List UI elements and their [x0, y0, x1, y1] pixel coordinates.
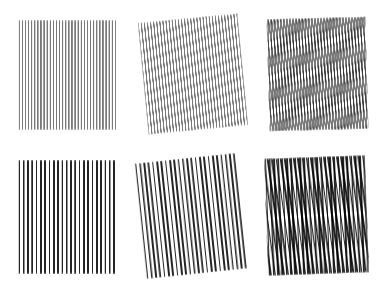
panel-1-content — [18, 20, 117, 130]
line-grating-layer-rotated — [267, 17, 369, 132]
panel-line-grating-base — [18, 20, 117, 130]
panel-4-content — [17, 160, 117, 274]
panel-5-content — [134, 153, 248, 279]
moire-figure — [0, 0, 388, 291]
panel-dot-grid-base — [17, 160, 117, 274]
dot-grid-layer — [17, 160, 117, 274]
panel-3-content — [267, 17, 369, 132]
panel-line-grating-moire — [267, 17, 369, 132]
panel-2-content — [138, 13, 248, 134]
line-grating-layer — [138, 13, 248, 134]
dot-grid-layer — [134, 153, 248, 279]
panel-6-content — [264, 155, 369, 275]
panel-dot-grid-moire — [264, 155, 369, 275]
line-grating-layer — [18, 20, 117, 130]
panel-dot-grid-rotated — [134, 153, 248, 279]
dot-grid-layer-rotated — [264, 155, 369, 275]
panel-line-grating-rotated — [138, 13, 248, 134]
